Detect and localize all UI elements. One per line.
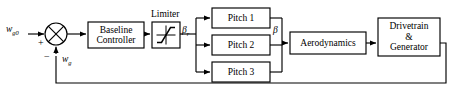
signal-feedback-sub: g — [68, 59, 71, 66]
summing-junction-plus-sign: + — [38, 38, 44, 48]
block-pitch-3 — [212, 62, 270, 82]
summing-junction-minus-sign: − — [44, 52, 50, 62]
signal-label-pitch-actual: β — [273, 25, 278, 35]
signal-pitch-actual-base: β — [273, 25, 278, 35]
signal-label-reference: wg0 — [6, 24, 19, 38]
block-pitch-1 — [212, 8, 270, 28]
signal-label-feedback: wg — [62, 54, 72, 68]
signal-label-pitch-reference: βr — [182, 25, 189, 39]
signal-pitch-reference-sub: r — [187, 30, 190, 37]
block-pitch-2 — [212, 35, 270, 55]
block-drivetrain-generator — [378, 18, 440, 56]
caption-limiter: Limiter — [151, 9, 180, 19]
block-diagram-canvas: Baseline Controller Pitch 1 Pitch 2 Pitc… — [0, 0, 457, 95]
signal-reference-sub: g0 — [12, 29, 19, 36]
diagram-vector-layer — [0, 0, 457, 95]
block-aerodynamics — [290, 32, 366, 54]
block-baseline-controller — [88, 22, 144, 48]
